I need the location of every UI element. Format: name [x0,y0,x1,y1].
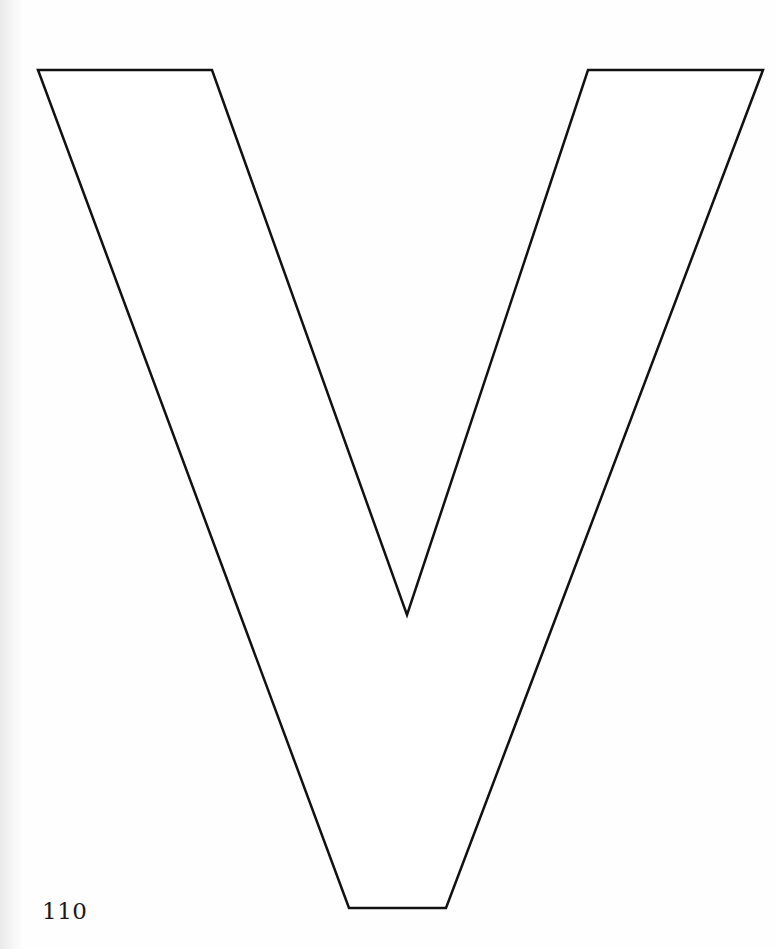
page-number: 110 [42,898,87,924]
coloring-page: 110 [0,0,776,949]
letter-v-shape [38,70,763,908]
letter-v-outline [0,0,776,949]
